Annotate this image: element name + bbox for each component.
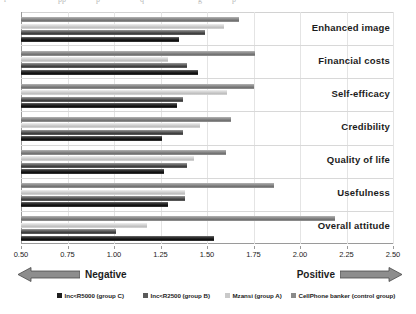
bar-fill [21, 190, 185, 195]
bar [21, 223, 147, 228]
axis-tick-mark [347, 246, 348, 249]
bar [21, 169, 164, 174]
bar-fill [21, 123, 200, 128]
bar-group [21, 111, 393, 144]
bar [21, 117, 231, 122]
category-label: Overall attitude [318, 220, 390, 231]
chart-plot-area: Enhanced imageFinancial costsSelf-effica… [21, 12, 393, 244]
bar [21, 163, 187, 168]
bar-fill [21, 103, 177, 108]
axis-tick-label: 2.00 [293, 250, 308, 259]
bar-fill [21, 90, 227, 95]
bar-fill [21, 37, 179, 42]
bar [21, 84, 254, 89]
negative-label: Negative [85, 269, 127, 280]
axis-tick-label: 2.50 [386, 250, 401, 259]
bar [21, 103, 177, 108]
bar [21, 229, 116, 234]
bar-fill [21, 223, 147, 228]
bar-fill [21, 150, 226, 155]
bar-fill [21, 196, 185, 201]
bar-fill [21, 30, 205, 35]
positive-label: Positive [297, 269, 335, 280]
artifact-fragment: r [4, 0, 7, 4]
category-label: Usefulness [337, 187, 390, 198]
bar-fill [21, 156, 194, 161]
bar-fill [21, 229, 116, 234]
bar-fill [21, 136, 162, 141]
bar [21, 236, 214, 241]
legend-swatch [225, 293, 230, 298]
x-axis: 0.500.751.001.251.501.752.002.252.50 [0, 246, 416, 262]
legend-item[interactable]: Inc<R2500 (group B) [143, 292, 210, 299]
legend-label: CellPhone banker (control group) [299, 292, 396, 299]
axis-tick-label: 1.25 [153, 250, 168, 259]
bar-fill [21, 169, 164, 174]
legend-item[interactable]: Mzansi (group A) [225, 292, 282, 299]
bar [21, 136, 162, 141]
legend-swatch [291, 293, 296, 298]
axis-tick-mark [114, 246, 115, 249]
negative-direction-group: Negative [18, 265, 127, 283]
bar [21, 17, 239, 22]
axis-tick-mark [68, 246, 69, 249]
artifact-fragment: p [96, 0, 100, 4]
bar [21, 37, 179, 42]
legend-item[interactable]: CellPhone banker (control group) [291, 292, 395, 299]
axis-tick-label: 1.00 [107, 250, 122, 259]
bar [21, 130, 183, 135]
positive-direction-group: Positive [297, 265, 402, 283]
bar [21, 123, 200, 128]
bar [21, 90, 227, 95]
artifact-fragment: q [140, 0, 144, 4]
bar-fill [21, 183, 274, 188]
legend-swatch [143, 293, 148, 298]
bar-fill [21, 216, 335, 221]
bar-fill [21, 51, 255, 56]
artifact-fragment: pp [58, 0, 66, 4]
legend-label: Inc<R2500 (group B) [151, 292, 210, 299]
bar-fill [21, 57, 168, 62]
bar-fill [21, 70, 198, 75]
artifact-fragment: p [232, 0, 236, 4]
axis-tick-label: 1.75 [246, 250, 261, 259]
bar [21, 70, 198, 75]
axis-tick-mark [161, 246, 162, 249]
bar [21, 183, 274, 188]
legend-label: Inc<R5000 (group C) [65, 292, 124, 299]
chart-legend: Inc<R5000 (group C)Inc<R2500 (group B)Mz… [0, 288, 416, 302]
gridline [393, 12, 394, 244]
category-label: Credibility [341, 121, 390, 132]
bar [21, 63, 187, 68]
bar-fill [21, 236, 214, 241]
bar [21, 156, 194, 161]
bar [21, 24, 224, 29]
bar-fill [21, 117, 231, 122]
bar [21, 196, 185, 201]
axis-tick-label: 0.50 [14, 250, 29, 259]
bar [21, 150, 226, 155]
bar-fill [21, 63, 187, 68]
axis-tick-mark [300, 246, 301, 249]
axis-tick-label: 2.25 [339, 250, 354, 259]
category-label: Quality of life [327, 154, 390, 165]
bar-fill [21, 130, 183, 135]
legend-label: Mzansi (group A) [233, 292, 282, 299]
bar [21, 190, 185, 195]
scale-direction-band: Negative Positive [0, 264, 416, 286]
bar-fill [21, 202, 168, 207]
axis-tick-mark [393, 246, 394, 249]
legend-item[interactable]: Inc<R5000 (group C) [57, 292, 124, 299]
axis-tick-mark [21, 246, 22, 249]
right-arrow-icon [340, 267, 402, 282]
left-arrow-icon [18, 267, 80, 282]
category-label: Self-efficacy [331, 88, 390, 99]
bar-fill [21, 24, 224, 29]
bar [21, 202, 168, 207]
axis-tick-label: 1.50 [200, 250, 215, 259]
bar-fill [21, 17, 239, 22]
axis-tick-mark [207, 246, 208, 249]
category-label: Enhanced image [312, 22, 390, 33]
bar [21, 216, 335, 221]
legend-swatch [57, 293, 62, 298]
